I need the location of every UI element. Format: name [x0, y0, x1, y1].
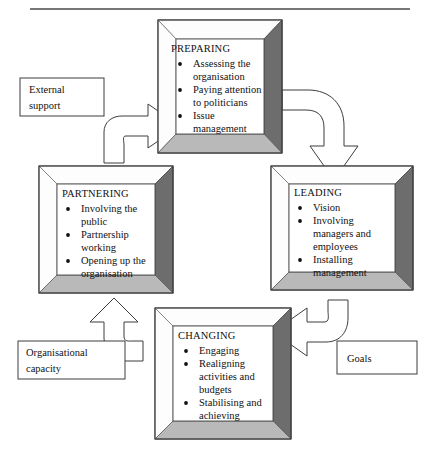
bullet-text: organisation: [193, 71, 245, 82]
bullet-text: Installing: [313, 254, 353, 265]
input-label-goals: Goals: [337, 341, 417, 374]
input-label-text: Organisational: [26, 347, 88, 358]
bullet-text: management: [193, 123, 247, 134]
input-label-text: capacity: [26, 363, 62, 374]
bullet-text: Partnership: [81, 229, 129, 240]
input-label-external-support: External support: [20, 78, 104, 116]
bullet-text: to politicians: [193, 97, 248, 108]
bullet-text: organisation: [81, 268, 133, 279]
bullet-text: public: [81, 216, 108, 227]
bullet-text: Involving: [313, 215, 355, 226]
bullet-text: Assessing the: [193, 58, 251, 69]
input-label-text: support: [29, 100, 61, 111]
input-label-organisational-capacity: Organisational capacity: [18, 341, 125, 379]
stage-box-changing: CHANGING Engaging Realigning activities …: [155, 308, 291, 439]
bullet-text: Vision: [313, 202, 341, 213]
bullet-text: management: [313, 267, 367, 278]
bullet-text: activities and: [199, 371, 255, 382]
bullet-text: employees: [313, 241, 358, 252]
bullet-text: Paying attention: [193, 84, 262, 95]
stage-box-leading: LEADING Vision Involving managers and em…: [271, 166, 413, 290]
bullet-text: Opening up the: [81, 255, 146, 266]
diagram-canvas: PREPARING Assessing the organisation Pay…: [0, 0, 435, 455]
bullet-text: achieving: [199, 410, 241, 421]
stage-box-preparing: PREPARING Assessing the organisation Pay…: [158, 20, 282, 153]
bullet-text: working: [81, 242, 117, 253]
stage-title-partnering: PARTNERING: [62, 188, 129, 199]
stage-box-partnering: PARTNERING Involving the public Partners…: [39, 166, 173, 293]
bullet-text: managers and: [313, 228, 372, 239]
bullet-text: Stabilising and: [199, 397, 262, 408]
bullet-text: budgets: [199, 384, 232, 395]
bullet-text: Engaging: [199, 345, 240, 356]
stage-title-changing: CHANGING: [178, 330, 236, 341]
input-label-text: External: [29, 84, 65, 95]
input-label-text: Goals: [347, 353, 372, 364]
stage-title-preparing: PREPARING: [171, 43, 230, 54]
bullet-text: Issue: [193, 110, 215, 121]
bullet-text: Realigning: [199, 358, 246, 369]
bullet-text: Involving the: [81, 203, 138, 214]
stage-title-leading: LEADING: [294, 187, 342, 198]
